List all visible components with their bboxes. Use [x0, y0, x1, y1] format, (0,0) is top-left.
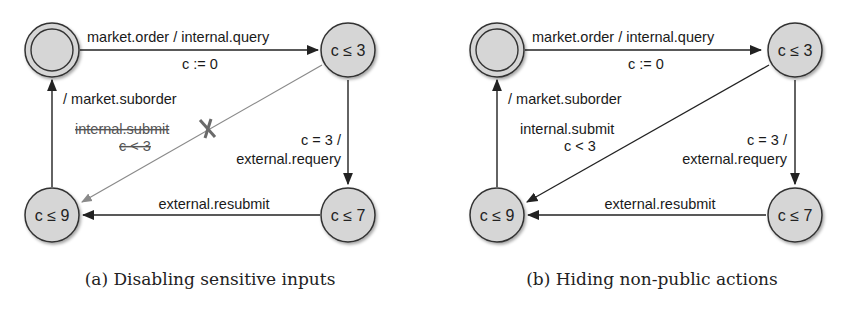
state-s3-label: c ≤ 9: [35, 207, 70, 224]
caption-b: (b) Hiding non-public actions: [526, 269, 778, 289]
edge-label-s1-to-s3-struck: internal.submit: [75, 121, 169, 137]
state-s2: c ≤ 7: [321, 188, 375, 242]
state-s2-label: c ≤ 7: [331, 207, 366, 224]
figure-canvas: c ≤ 3 c ≤ 7 c ≤ 9 market.order / interna…: [0, 0, 847, 329]
state-s3: c ≤ 9: [470, 188, 524, 242]
edge-label-s1-to-s2: external.requery: [682, 151, 788, 167]
disabled-cross-icon: [200, 119, 215, 138]
state-s3-label: c ≤ 9: [480, 207, 515, 224]
edge-guard-s1-to-s3: c < 3: [564, 138, 596, 154]
edge-label-init-to-s1: market.order / internal.query: [87, 29, 270, 45]
state-s1: c ≤ 3: [321, 23, 375, 77]
edge-guard-s1-to-s2: c = 3 /: [747, 132, 788, 148]
state-s3: c ≤ 9: [25, 188, 79, 242]
caption-a: (a) Disabling sensitive inputs: [85, 269, 336, 289]
edge-label-init-to-s1: market.order / internal.query: [532, 29, 715, 45]
edge-reset-init-to-s1: c := 0: [628, 56, 664, 72]
state-s2-label: c ≤ 7: [778, 207, 813, 224]
edge-guard-s1-to-s3-struck: c < 3: [119, 138, 151, 154]
edge-label-s3-to-init: / market.suborder: [508, 91, 622, 107]
edge-guard-s1-to-s2: c = 3 /: [301, 132, 342, 148]
edge-label-s1-to-s3: internal.submit: [520, 121, 614, 137]
state-initial: [25, 23, 79, 77]
state-s1: c ≤ 3: [768, 23, 822, 77]
panel-b: c ≤ 3 c ≤ 7 c ≤ 9 market.order / interna…: [470, 23, 822, 289]
state-s1-label: c ≤ 3: [331, 42, 366, 59]
edge-label-s3-to-init: / market.suborder: [63, 91, 177, 107]
edge-label-s2-to-s3: external.resubmit: [604, 196, 715, 212]
state-s2: c ≤ 7: [768, 188, 822, 242]
edge-reset-init-to-s1: c := 0: [182, 56, 218, 72]
panel-a: c ≤ 3 c ≤ 7 c ≤ 9 market.order / interna…: [25, 23, 375, 289]
state-s1-label: c ≤ 3: [778, 42, 813, 59]
edge-label-s2-to-s3: external.resubmit: [158, 196, 269, 212]
edge-label-s1-to-s2: external.requery: [236, 151, 342, 167]
state-initial: [470, 23, 524, 77]
